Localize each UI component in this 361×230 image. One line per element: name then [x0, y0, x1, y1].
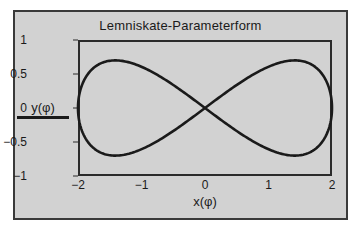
- x-tick-label-0: 0: [202, 178, 209, 192]
- figure-panel: Lemniskate-Parameterform 1 0.5 0 −0.5 −1…: [13, 10, 348, 220]
- y-axis-label: y(φ): [17, 100, 69, 119]
- y-tick-label-neg0_5: −0.5: [0, 135, 27, 149]
- x-tick-label-neg1: −1: [135, 178, 149, 192]
- chart-title: Lemniskate-Parameterform: [15, 18, 346, 33]
- x-tick-label-2: 2: [329, 178, 336, 192]
- y-tick-label-0_5: 0.5: [0, 67, 27, 81]
- x-axis-label: x(φ): [78, 194, 332, 209]
- y-tick-label-neg1: −1: [0, 169, 27, 183]
- lemniscate-curve-svg: [78, 40, 332, 176]
- y-axis-label-text: y(φ): [17, 100, 69, 115]
- x-tick-label-1: 1: [265, 178, 272, 192]
- y-axis-label-underline: [17, 116, 69, 119]
- lemniscate-curve: [78, 60, 332, 155]
- x-tick-label-neg2: −2: [71, 178, 85, 192]
- y-tick-label-1: 1: [0, 33, 27, 47]
